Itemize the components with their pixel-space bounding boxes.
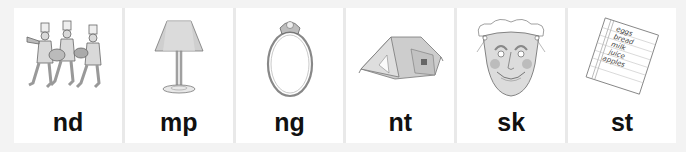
card-nd: nd: [14, 8, 122, 143]
ring-icon: [236, 8, 344, 106]
card-ng: ng: [236, 8, 344, 143]
card-label: ng: [274, 110, 305, 135]
phonics-card-strip: nd mp ng: [14, 8, 676, 143]
card-st: eggs bread milk juice apples st: [568, 8, 676, 143]
mask-icon: [457, 8, 565, 106]
card-nt: nt: [346, 8, 454, 143]
card-mp: mp: [125, 8, 233, 143]
marching-band-icon: [14, 8, 122, 106]
card-sk: sk: [457, 8, 565, 143]
tent-icon: [346, 8, 454, 106]
shopping-list-icon: eggs bread milk juice apples: [568, 8, 676, 106]
lamp-icon: [125, 8, 233, 106]
card-label: sk: [497, 110, 525, 135]
card-label: nt: [389, 110, 413, 135]
card-label: nd: [53, 110, 84, 135]
card-label: st: [611, 110, 633, 135]
card-label: mp: [160, 110, 198, 135]
